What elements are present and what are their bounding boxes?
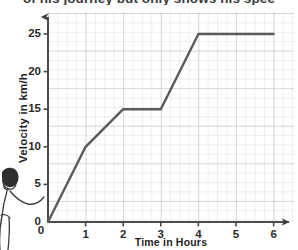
x-tick-label-0: 0: [32, 224, 50, 236]
y-axis-title: Velocity in km/h: [17, 58, 29, 178]
chart-page: of his journey but only shows his spee: [0, 0, 298, 250]
y-tick-label-25: 25: [17, 27, 41, 39]
x-axis-title: Time in Hours: [48, 236, 294, 248]
y-tick-label-5: 5: [17, 177, 41, 189]
velocity-data-line: [48, 34, 274, 222]
velocity-time-chart: [0, 0, 298, 250]
